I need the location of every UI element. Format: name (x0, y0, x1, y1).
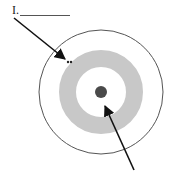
marks (67, 61, 72, 63)
atom-diagram (0, 0, 173, 179)
nucleus-dot (95, 86, 107, 98)
arrow-to-ring (14, 18, 65, 59)
